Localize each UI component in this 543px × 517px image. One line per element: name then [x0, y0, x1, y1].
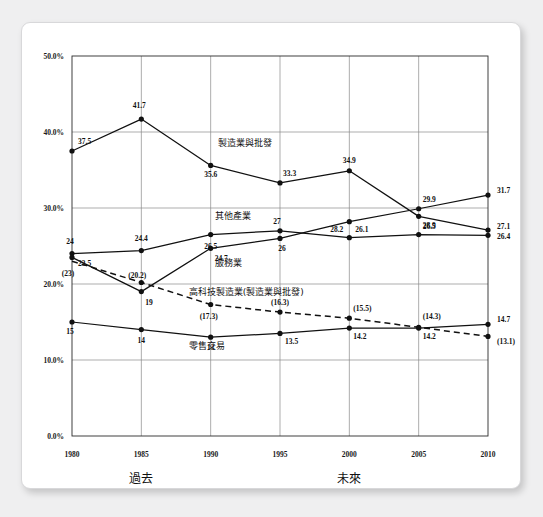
x-tick-label: 1980 — [65, 450, 80, 459]
y-tick-label: 50.0% — [43, 52, 64, 61]
value-label: 27.1 — [497, 222, 510, 231]
value-label: 27 — [273, 217, 281, 226]
data-point — [277, 180, 282, 185]
x-tick-label: 1995 — [273, 450, 288, 459]
data-point — [416, 232, 421, 237]
value-label: 14.7 — [497, 315, 510, 324]
value-label: (20.2) — [128, 271, 147, 280]
value-label: 14.2 — [353, 332, 366, 341]
data-point — [277, 331, 282, 336]
value-label: 33.3 — [283, 169, 296, 178]
value-label: 31.7 — [497, 186, 510, 195]
value-label: 19 — [145, 298, 153, 307]
period-labels: 過去未來 — [129, 472, 361, 486]
value-label: 37.5 — [78, 137, 91, 146]
y-tick-label: 30.0% — [43, 204, 64, 213]
data-point — [416, 325, 421, 330]
value-label: (16.3) — [271, 298, 290, 307]
data-point — [139, 116, 144, 121]
value-label: (23) — [62, 269, 75, 278]
value-label: 41.7 — [133, 101, 146, 110]
value-label: 15 — [66, 327, 74, 336]
value-label: (14.3) — [423, 312, 442, 321]
period-label-past: 過去 — [129, 472, 153, 486]
value-label: 35.6 — [204, 170, 217, 179]
data-point — [485, 322, 490, 327]
chart-card: 0.0%10.0%20.0%30.0%40.0%50.0% 1980198519… — [21, 22, 521, 489]
data-point — [347, 219, 352, 224]
period-label-future: 未來 — [337, 472, 361, 486]
value-label: 26.4 — [497, 232, 510, 241]
y-tick-label: 40.0% — [43, 128, 64, 137]
data-point — [416, 214, 421, 219]
y-tick-label: 0.0% — [47, 432, 64, 441]
chart-svg: 0.0%10.0%20.0%30.0%40.0%50.0% 1980198519… — [22, 23, 520, 488]
value-label: 14.2 — [423, 332, 436, 341]
data-point — [208, 335, 213, 340]
value-label: 26 — [278, 244, 286, 253]
data-point — [208, 163, 213, 168]
series-label-4: 零售交易 — [189, 340, 225, 351]
data-point — [277, 310, 282, 315]
data-point — [139, 327, 144, 332]
x-tick-label: 2000 — [342, 450, 357, 459]
series-label-0: 製造業與批發 — [218, 137, 272, 148]
y-tick-label: 20.0% — [43, 280, 64, 289]
data-point — [485, 227, 490, 232]
value-label: 24.4 — [135, 234, 148, 243]
data-point — [208, 302, 213, 307]
value-label: 28.2 — [330, 225, 343, 234]
value-label: 26.1 — [355, 225, 368, 234]
x-tick-label: 1990 — [203, 450, 218, 459]
series-label-2: 服務業 — [215, 257, 242, 268]
data-point — [347, 235, 352, 240]
value-label: 26.5 — [423, 222, 436, 231]
series-label-3: 高科技製造業(製造業與批發) — [189, 286, 304, 297]
y-tick-label: 10.0% — [43, 356, 64, 365]
data-point — [69, 255, 74, 260]
data-point — [139, 248, 144, 253]
data-point — [485, 192, 490, 197]
data-point — [347, 316, 352, 321]
value-label: 34.9 — [343, 156, 356, 165]
value-label: 26.5 — [204, 242, 217, 251]
data-point — [485, 334, 490, 339]
value-label: 24 — [66, 237, 74, 246]
data-point — [347, 325, 352, 330]
value-label: 29.9 — [423, 195, 436, 204]
value-labels: 37.541.735.633.334.928.927.12424.426.527… — [62, 101, 516, 352]
data-point — [277, 236, 282, 241]
data-point — [416, 206, 421, 211]
data-point — [139, 280, 144, 285]
x-tick-label: 1985 — [134, 450, 149, 459]
value-label: (17.3) — [200, 312, 219, 321]
value-label: (13.1) — [497, 337, 516, 346]
y-axis-ticks: 0.0%10.0%20.0%30.0%40.0%50.0% — [43, 52, 64, 441]
line-chart: 0.0%10.0%20.0%30.0%40.0%50.0% 1980198519… — [22, 23, 520, 488]
value-label: (15.5) — [353, 304, 372, 313]
data-point — [277, 228, 282, 233]
x-tick-label: 2005 — [411, 450, 426, 459]
data-point — [139, 289, 144, 294]
data-point — [485, 233, 490, 238]
value-label: 14 — [138, 336, 146, 345]
series-label-1: 其他產業 — [215, 210, 251, 221]
data-point — [208, 232, 213, 237]
x-axis-ticks: 1980198519901995200020052010 — [65, 450, 496, 459]
value-label: 13.5 — [285, 337, 298, 346]
x-tick-label: 2010 — [481, 450, 496, 459]
data-point — [69, 319, 74, 324]
value-label: 23.5 — [78, 259, 91, 268]
data-point — [347, 168, 352, 173]
data-point — [69, 148, 74, 153]
